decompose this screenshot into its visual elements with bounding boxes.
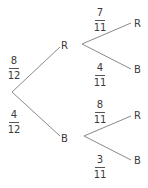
denominator: 11 [92, 115, 108, 125]
prob-B-then-B: 3 11 [92, 155, 108, 180]
prob-first-R: 8 12 [6, 56, 22, 81]
numerator: 7 [92, 8, 108, 18]
fraction-bar [95, 167, 105, 168]
fraction-bar [95, 112, 105, 113]
fraction-bar [9, 68, 19, 69]
fraction-bar [95, 75, 105, 76]
node-first-R: R [61, 41, 68, 51]
node-R-B: B [134, 65, 141, 75]
fraction-bar [95, 20, 105, 21]
node-B-R: R [134, 111, 141, 121]
numerator: 8 [6, 56, 22, 66]
prob-first-B: 4 12 [6, 110, 22, 135]
numerator: 3 [92, 155, 108, 165]
prob-R-then-R: 7 11 [92, 8, 108, 33]
node-B-B: B [134, 156, 141, 166]
tree-branches [0, 0, 148, 188]
numerator: 8 [92, 100, 108, 110]
node-first-B: B [61, 134, 68, 144]
denominator: 11 [92, 170, 108, 180]
fraction-bar [9, 122, 19, 123]
denominator: 12 [6, 71, 22, 81]
denominator: 11 [92, 23, 108, 33]
node-R-R: R [134, 19, 141, 29]
denominator: 11 [92, 78, 108, 88]
numerator: 4 [92, 63, 108, 73]
numerator: 4 [6, 110, 22, 120]
prob-B-then-R: 8 11 [92, 100, 108, 125]
denominator: 12 [6, 125, 22, 135]
prob-R-then-B: 4 11 [92, 63, 108, 88]
